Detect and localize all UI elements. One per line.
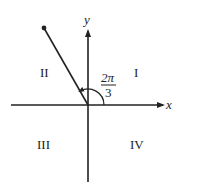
- terminal-point: [42, 26, 47, 31]
- angle-denominator: 3: [105, 85, 112, 100]
- quadrant-iv-label: IV: [130, 137, 144, 152]
- y-axis-label: y: [82, 12, 90, 27]
- angle-numerator: 2π: [101, 70, 115, 85]
- unit-angle-diagram: y x II I III IV 2π 3: [0, 0, 197, 186]
- x-axis-label: x: [165, 97, 172, 112]
- quadrant-i-label: I: [134, 65, 138, 80]
- quadrant-ii-label: II: [40, 65, 49, 80]
- terminal-ray: [44, 28, 88, 105]
- quadrant-iii-label: III: [37, 137, 50, 152]
